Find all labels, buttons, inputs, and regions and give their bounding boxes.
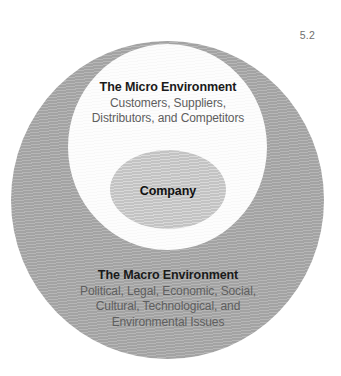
macro-environment-line-1: Political, Legal, Economic, Social,: [44, 284, 292, 300]
company-label: Company: [110, 183, 226, 200]
figure-container: 5.2 The Micro Environment Customers, Sup…: [0, 0, 341, 376]
micro-environment-line-2: Distributors, and Competitors: [52, 111, 284, 127]
macro-environment-line-3: Environmental Issues: [44, 315, 292, 331]
figure-number: 5.2: [300, 30, 315, 41]
micro-environment-heading: The Micro Environment: [52, 79, 284, 96]
company-heading: Company: [110, 183, 226, 200]
micro-environment-label: The Micro Environment Customers, Supplie…: [52, 79, 284, 127]
micro-environment-line-1: Customers, Suppliers,: [52, 96, 284, 112]
macro-environment-heading: The Macro Environment: [44, 267, 292, 284]
macro-environment-label: The Macro Environment Political, Legal, …: [44, 267, 292, 331]
macro-environment-line-2: Cultural, Technological, and: [44, 299, 292, 315]
